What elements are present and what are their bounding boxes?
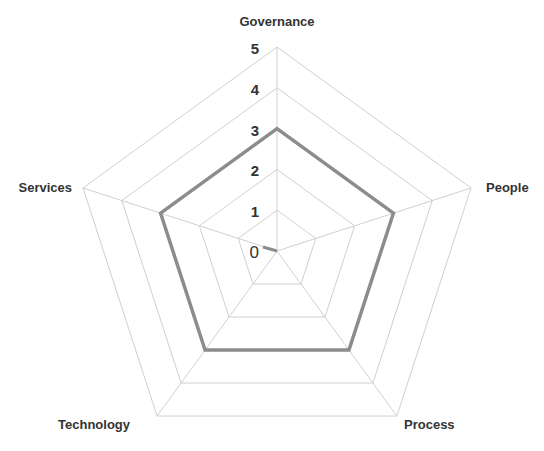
axis-label-governance: Governance	[239, 14, 314, 29]
axis-label-people: People	[486, 180, 529, 195]
tick-label-4: 4	[251, 81, 260, 98]
axis-label-technology: Technology	[58, 417, 131, 432]
radar-axis-labels: GovernancePeopleProcessTechnologyService…	[19, 14, 529, 432]
axis-label-process: Process	[404, 417, 455, 432]
spoke-technology	[157, 251, 277, 416]
axis-label-services: Services	[19, 180, 73, 195]
tick-label-5: 5	[251, 40, 259, 57]
tick-label-1: 1	[251, 203, 259, 220]
center-stroke	[263, 247, 277, 251]
radar-spokes	[83, 47, 471, 416]
tick-label-0: 0	[250, 243, 259, 262]
radar-chart: 012345 GovernancePeopleProcessTechnology…	[0, 0, 544, 451]
tick-label-2: 2	[251, 162, 259, 179]
spoke-process	[277, 251, 397, 416]
tick-label-3: 3	[251, 122, 259, 139]
